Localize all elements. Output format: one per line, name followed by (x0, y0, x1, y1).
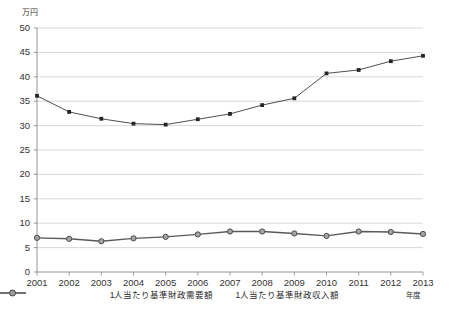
data-point (325, 71, 329, 75)
legend-label-demand: 1人当たり基準財政需要額 (110, 288, 214, 300)
x-axis-tick-label: 2011 (342, 278, 376, 288)
data-point (292, 231, 297, 236)
y-axis-tick-label: 45 (8, 47, 30, 57)
y-axis-tick-label: 50 (8, 23, 30, 33)
data-point (260, 229, 265, 234)
line-chart: 万円 50454035302520151050 2001200220032004… (0, 0, 449, 313)
data-point (227, 229, 232, 234)
y-axis-tick-label: 15 (8, 194, 30, 204)
y-axis-tick-label: 40 (8, 72, 30, 82)
x-axis-tick-label: 2010 (310, 278, 344, 288)
data-point (228, 112, 232, 116)
data-point (163, 234, 168, 239)
y-axis-tick-label: 20 (8, 169, 30, 179)
x-axis-tick-label: 2012 (374, 278, 408, 288)
data-point (67, 110, 71, 114)
data-point (99, 117, 103, 121)
legend-item-demand[interactable]: 1人当たり基準財政需要額 (110, 288, 214, 300)
data-point (164, 123, 168, 127)
x-axis-tick-label: 2008 (245, 278, 279, 288)
data-point (132, 122, 136, 126)
data-point (67, 236, 72, 241)
data-point (388, 229, 393, 234)
data-point (35, 94, 39, 98)
data-point (260, 103, 264, 107)
data-point (195, 232, 200, 237)
data-point (196, 117, 200, 121)
y-axis-tick-label: 0 (8, 267, 30, 277)
data-point (420, 231, 425, 236)
data-point (357, 68, 361, 72)
chart-legend: 1人当たり基準財政需要額 1人当たり基準財政収入額 (0, 288, 449, 300)
data-point (389, 59, 393, 63)
x-axis-tick-label: 2001 (20, 278, 54, 288)
legend-marker-circle-icon (0, 288, 26, 298)
x-axis-tick-label: 2009 (277, 278, 311, 288)
x-axis-tick-label: 2004 (117, 278, 151, 288)
y-axis-tick-label: 25 (8, 145, 30, 155)
y-axis-tick-label: 5 (8, 243, 30, 253)
legend-item-revenue[interactable]: 1人当たり基準財政収入額 (236, 288, 340, 300)
data-point (356, 229, 361, 234)
y-axis-tick-label: 30 (8, 121, 30, 131)
x-axis-tick-label: 2002 (52, 278, 86, 288)
data-point (292, 96, 296, 100)
data-point (421, 54, 425, 58)
y-axis-tick-label: 35 (8, 96, 30, 106)
data-point (34, 235, 39, 240)
data-point (131, 236, 136, 241)
x-axis-tick-label: 2013 (406, 278, 440, 288)
data-point (324, 233, 329, 238)
data-point (99, 239, 104, 244)
plot-area (0, 0, 449, 313)
x-axis-tick-label: 2007 (213, 278, 247, 288)
x-axis-tick-label: 2003 (84, 278, 118, 288)
x-axis-tick-label: 2005 (149, 278, 183, 288)
x-axis-tick-label: 2006 (181, 278, 215, 288)
legend-label-revenue: 1人当たり基準財政収入額 (236, 288, 340, 300)
y-axis-tick-label: 10 (8, 218, 30, 228)
